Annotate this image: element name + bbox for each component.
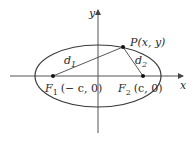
y-axis-label: y [88,7,96,20]
point-P [121,45,125,49]
focus-F1-label: F1(− c, 0) [44,82,102,97]
d2-label: d2 [135,54,147,69]
d1-label: d1 [64,54,76,69]
focus-F1 [51,74,55,78]
focus-F2 [141,74,145,78]
ellipse-diagram: y x P(x, y) d1 d2 F1(− c, 0) F2(c, 0) [0,0,193,146]
x-axis-label: x [180,79,187,92]
point-P-label: P(x, y) [129,36,165,49]
focus-F2-label: F2(c, 0) [117,82,162,97]
